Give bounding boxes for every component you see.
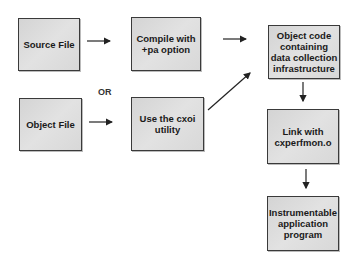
node-label: Source File — [23, 39, 74, 50]
node-cxoi: Use the cxoi utility — [131, 97, 204, 151]
node-instrumentable: Instrumentable application program — [267, 196, 339, 251]
node-object-file: Object File — [19, 98, 82, 151]
node-source-file: Source File — [18, 18, 80, 71]
node-label: Object File — [26, 119, 75, 130]
node-label: Object code containing data collection i… — [269, 30, 339, 74]
arrow-cxoi-to-objectcode — [208, 73, 250, 110]
node-label: Use the cxoi utility — [132, 113, 203, 135]
node-label: Compile with +pa option — [132, 33, 200, 55]
node-object-code: Object code containing data collection i… — [268, 25, 340, 79]
node-label: Link with cxperfmon.o — [268, 126, 338, 148]
node-link: Link with cxperfmon.o — [267, 109, 339, 164]
or-label: OR — [98, 87, 112, 97]
node-compile: Compile with +pa option — [131, 17, 201, 71]
node-label: Instrumentable application program — [268, 207, 338, 240]
